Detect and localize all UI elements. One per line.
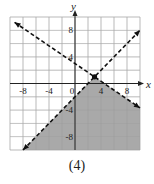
x-tick-label: 0 [70, 86, 75, 96]
x-tick-label: -8 [19, 86, 27, 96]
x-tick-label: 8 [125, 86, 130, 96]
intersection-point [92, 74, 97, 79]
shaded-region [23, 77, 140, 150]
y-tick-label: -4 [66, 105, 74, 115]
x-tick-label: -4 [45, 86, 53, 96]
boundary-line-2-arrowhead [134, 30, 140, 36]
y-axis-label: y [70, 0, 76, 12]
figure-caption: (4) [0, 158, 154, 174]
x-axis-arrow [138, 81, 144, 86]
chart: -8-404884-4-8 x y [0, 0, 154, 184]
x-tick-label: 4 [99, 86, 104, 96]
x-axis-label: x [145, 78, 151, 90]
boundary-line-1-arrowhead [15, 22, 21, 28]
y-tick-label: 8 [69, 25, 74, 35]
y-tick-label: 4 [69, 52, 74, 62]
y-tick-label: -8 [66, 132, 74, 142]
